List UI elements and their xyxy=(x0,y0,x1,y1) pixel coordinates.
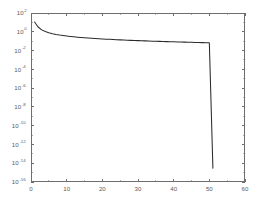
y-tick-label-base: 10 xyxy=(12,141,19,148)
y-tick-label-exponent: -12 xyxy=(19,139,26,144)
y-tick-label-exponent: -8 xyxy=(22,102,26,107)
x-tick-label: 60 xyxy=(242,185,249,192)
y-tick-label-exponent: -14 xyxy=(19,158,26,163)
y-tick-label-exponent: -2 xyxy=(22,45,26,50)
y-tick-label-exponent: -6 xyxy=(22,83,26,88)
x-tick-label: 50 xyxy=(206,185,213,192)
x-tick-label: 30 xyxy=(135,185,142,192)
y-tick-label-base: 10 xyxy=(14,103,21,110)
y-tick-label-base: 10 xyxy=(14,66,21,73)
x-tick-label: 20 xyxy=(99,185,106,192)
y-tick-label-exponent: -4 xyxy=(22,64,26,69)
y-tick-label-exponent: -16 xyxy=(19,177,26,182)
y-tick-label-base: 10 xyxy=(17,28,24,35)
y-tick-label-exponent: -10 xyxy=(19,120,26,125)
figure-container: 0102030405060 10210010-210-410-610-810-1… xyxy=(0,0,264,212)
y-tick-label-base: 10 xyxy=(12,178,19,185)
y-tick-label-base: 10 xyxy=(14,47,21,54)
x-tick-label: 10 xyxy=(63,185,70,192)
y-tick-label-base: 10 xyxy=(17,9,24,16)
y-tick-label-base: 10 xyxy=(14,84,21,91)
x-tick-label: 40 xyxy=(170,185,177,192)
y-tick-label-base: 10 xyxy=(12,159,19,166)
plot-background xyxy=(0,0,264,212)
chart-canvas: 0102030405060 10210010-210-410-610-810-1… xyxy=(0,0,264,212)
y-tick-label-base: 10 xyxy=(12,122,19,129)
